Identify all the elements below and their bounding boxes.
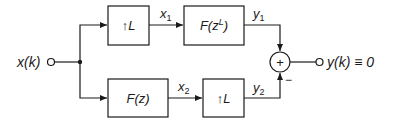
wire-to-upsampler-top <box>80 25 107 62</box>
minus-sign: − <box>285 73 292 87</box>
signal-x1-label: x1 <box>159 6 172 23</box>
filter-top-label: F(zL) <box>200 17 228 33</box>
filter-bottom-label: F(z) <box>126 91 149 106</box>
upsampler-top-label: ↑L <box>122 18 136 33</box>
output-label: y(k) ≡ 0 <box>326 54 374 70</box>
upsampler-bottom-label: ↑L <box>217 91 231 106</box>
output-terminal <box>316 59 323 66</box>
plus-sign: + <box>276 55 284 70</box>
wire-y1 <box>244 25 280 51</box>
wire-to-filter-bottom <box>80 62 107 98</box>
signal-y2-label: y2 <box>252 80 265 97</box>
signal-x2-label: x2 <box>177 79 190 96</box>
input-label: x(k) <box>16 54 40 70</box>
block-diagram: x(k) ↑L x1 F(zL) y1 F(z) x2 ↑L y2 − + y(… <box>0 0 401 124</box>
input-terminal <box>48 59 55 66</box>
signal-y1-label: y1 <box>252 6 265 23</box>
